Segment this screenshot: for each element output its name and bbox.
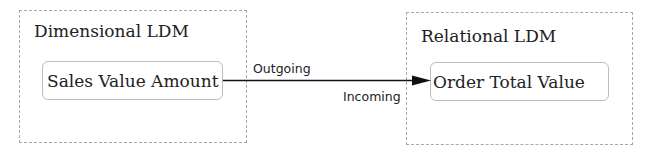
- relationship-arrow: [0, 0, 649, 153]
- outgoing-label: Outgoing: [253, 61, 311, 76]
- incoming-label: Incoming: [343, 89, 401, 104]
- arrowhead-icon: [412, 76, 431, 86]
